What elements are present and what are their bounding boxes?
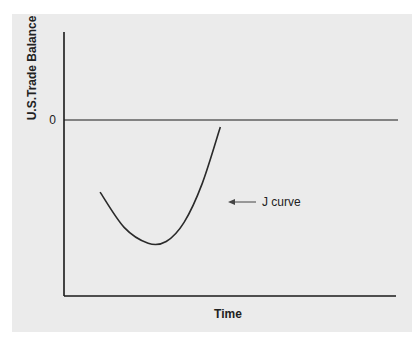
annotation-arrowhead [228, 199, 235, 205]
j-curve-line [100, 127, 220, 245]
y-axis-label: U.S.Trade Balance [25, 15, 39, 120]
annotation-label-j-curve: J curve [262, 195, 301, 209]
j-curve-chart: 0 U.S.Trade Balance Time J curve [0, 0, 418, 343]
y-tick-label-zero: 0 [49, 113, 56, 127]
x-axis-label: Time [214, 307, 242, 321]
